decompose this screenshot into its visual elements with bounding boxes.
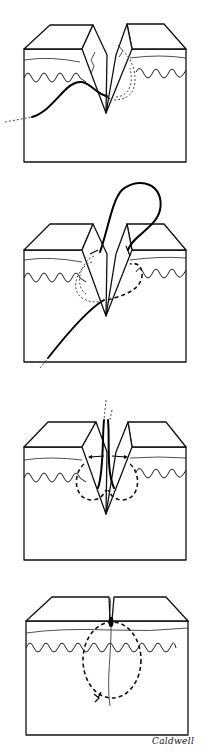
illustration-canvas (0, 0, 208, 752)
panel-4-left-top (26, 597, 110, 621)
panel-2-left-top (24, 224, 93, 250)
panel-1-right-top (127, 24, 186, 49)
panel-3 (24, 400, 186, 560)
panel-4-right-top (112, 597, 188, 621)
panel-2-right-top (127, 224, 186, 250)
panel-2 (24, 183, 186, 368)
panel-1 (5, 24, 186, 162)
panel-3-right-top (128, 422, 186, 447)
panel-4-front-face (26, 621, 188, 735)
panel-1-left-top (24, 25, 93, 49)
panel-4 (26, 597, 188, 735)
suture-illustration: Caldwell (0, 0, 208, 752)
artist-signature: Caldwell (152, 736, 194, 746)
